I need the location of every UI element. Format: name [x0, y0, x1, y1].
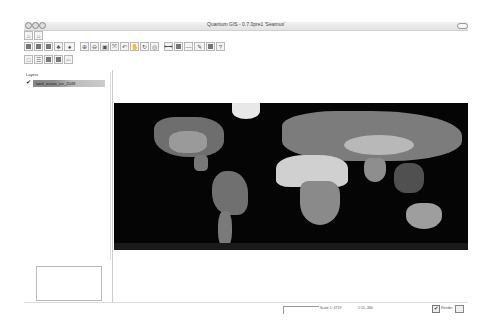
toolbar-toggle-button[interactable] — [457, 23, 468, 29]
capture-line-icon: ⌂ — [37, 33, 41, 39]
map-canvas[interactable] — [112, 70, 469, 302]
projection-icon[interactable] — [455, 305, 464, 313]
layer-overview-icon: ⌓ — [66, 56, 71, 63]
zoom-in-button[interactable]: ⊕ — [80, 42, 89, 51]
help-button[interactable]: ? — [216, 42, 225, 51]
layer-item[interactable]: ✔ land_ocean_ice_2048 — [25, 78, 109, 87]
scale-label: Scale 1: 4719 — [320, 306, 341, 313]
measure-button[interactable]: ⟷ — [164, 42, 173, 51]
capture-point-icon: ⌂ — [27, 33, 31, 39]
identify-icon: ◎ — [152, 43, 157, 50]
add-raster-layer-button[interactable]: ♠ — [64, 42, 75, 51]
layers-panel: Layers ✔ land_ocean_ice_2048 — [25, 72, 111, 260]
layer-hide-button[interactable] — [54, 55, 63, 64]
layer-list-icon: ☰ — [36, 56, 41, 63]
toolbar-row-layers: □ ☰ ⌓ — [24, 55, 73, 64]
add-vector-layer-button[interactable]: ♣ — [54, 42, 63, 51]
zoom-out-icon: ⊖ — [92, 43, 97, 50]
refresh-icon: ↻ — [142, 43, 147, 50]
identify-button[interactable]: ◎ — [150, 42, 159, 51]
layers-panel-title: Layers — [26, 72, 38, 77]
pan-button[interactable]: ✋ — [130, 42, 139, 51]
add-raster-layer-icon: ♠ — [68, 44, 71, 50]
zoom-last-button[interactable]: ↶ — [120, 42, 129, 51]
layer-new-icon: □ — [27, 57, 31, 63]
layer-overview-button[interactable]: ⌓ — [64, 55, 73, 64]
window-title: Quantum GIS - 0.7.0pre1 'Seamus' — [24, 21, 468, 27]
render-label: Render — [441, 306, 452, 313]
status-bar-divider — [24, 302, 468, 303]
zoom-full-button[interactable]: ▣ — [100, 42, 109, 51]
digitize-icon: ✎ — [197, 43, 202, 50]
layer-visibility-checkbox[interactable]: ✔ — [26, 78, 31, 85]
pan-icon: ✋ — [131, 43, 138, 50]
save-project-button[interactable] — [44, 42, 53, 51]
layer-new-button[interactable]: □ — [24, 55, 33, 64]
title-bar: Quantum GIS - 0.7.0pre1 'Seamus' — [24, 22, 468, 31]
capture-point-button[interactable]: ⌂ — [24, 31, 33, 40]
map-composer-button[interactable] — [206, 42, 215, 51]
line-icon: — — [186, 44, 192, 50]
zoom-out-button[interactable]: ⊖ — [90, 42, 99, 51]
zoom-last-icon: ↶ — [122, 43, 127, 50]
zoom-layer-button[interactable]: ⤧ — [110, 42, 119, 51]
line-button[interactable]: — — [184, 42, 193, 51]
capture-line-button[interactable]: ⌂ — [34, 31, 43, 40]
toolbar-row-main: ♣ ♠ ⊕ ⊖ ▣ ⤧ ↶ ✋ ↻ ◎ ⟷ — ✎ ? — [24, 42, 225, 51]
new-project-button[interactable] — [24, 42, 33, 51]
zoom-full-icon: ▣ — [102, 43, 108, 50]
layer-show-button[interactable] — [44, 55, 53, 64]
world-raster-map — [114, 103, 468, 250]
digitize-button[interactable]: ✎ — [194, 42, 205, 51]
toolbar-row-digitizing: ⌂ ⌂ — [24, 31, 43, 40]
overview-map[interactable] — [36, 266, 102, 301]
coordinates-label: 1:15,-360 — [358, 306, 373, 313]
help-icon: ? — [219, 44, 222, 50]
attribute-table-button[interactable] — [174, 42, 183, 51]
layer-list-button[interactable]: ☰ — [34, 55, 43, 64]
progress-bar — [283, 306, 319, 314]
add-vector-layer-icon: ♣ — [57, 44, 61, 50]
layer-name: land_ocean_ice_2048 — [36, 81, 75, 86]
refresh-button[interactable]: ↻ — [140, 42, 149, 51]
measure-icon: ⟷ — [164, 43, 173, 50]
zoom-in-icon: ⊕ — [82, 43, 87, 50]
render-checkbox[interactable]: ✔ — [432, 305, 440, 313]
open-project-button[interactable] — [34, 42, 43, 51]
zoom-layer-icon: ⤧ — [112, 43, 117, 50]
